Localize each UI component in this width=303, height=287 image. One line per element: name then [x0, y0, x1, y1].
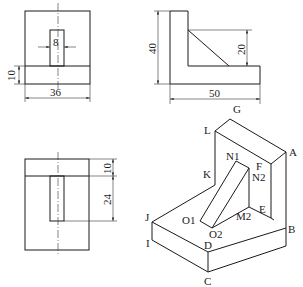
- dim-width: 36: [50, 86, 62, 98]
- dim-back-thickness: 10: [101, 163, 113, 175]
- technical-drawing: 8 10 36 40 20 50: [0, 0, 303, 287]
- top-view: 10 24: [25, 152, 117, 256]
- vertex-label-C: C: [204, 275, 211, 287]
- dim-slot-width: 8: [53, 36, 59, 48]
- dim-slot-length: 24: [101, 194, 113, 206]
- vertex-label-N1: N1: [226, 150, 239, 162]
- vertex-label-L: L: [204, 124, 211, 136]
- vertex-label-A: A: [289, 146, 297, 158]
- vertex-label-G: G: [233, 103, 241, 115]
- isometric-view: G L A K N1 F N2 E J O1 M2 O2 B I D C: [145, 103, 297, 287]
- vertex-label-K: K: [203, 168, 211, 180]
- vertex-label-N2: N2: [252, 171, 265, 183]
- vertex-label-D: D: [204, 239, 212, 251]
- side-view: 40 20 50: [146, 11, 260, 104]
- dim-base-height: 10: [5, 70, 17, 82]
- vertex-label-O1: O1: [182, 214, 195, 226]
- dim-rib-height: 20: [235, 44, 247, 56]
- vertex-label-E: E: [259, 203, 266, 215]
- front-view: 8 10 36: [5, 3, 90, 102]
- vertex-label-M2: M2: [236, 210, 251, 222]
- vertex-label-J: J: [145, 211, 150, 223]
- dim-length: 50: [209, 87, 221, 99]
- vertex-label-B: B: [288, 223, 295, 235]
- vertex-label-I: I: [146, 237, 150, 249]
- dim-height: 40: [146, 43, 158, 55]
